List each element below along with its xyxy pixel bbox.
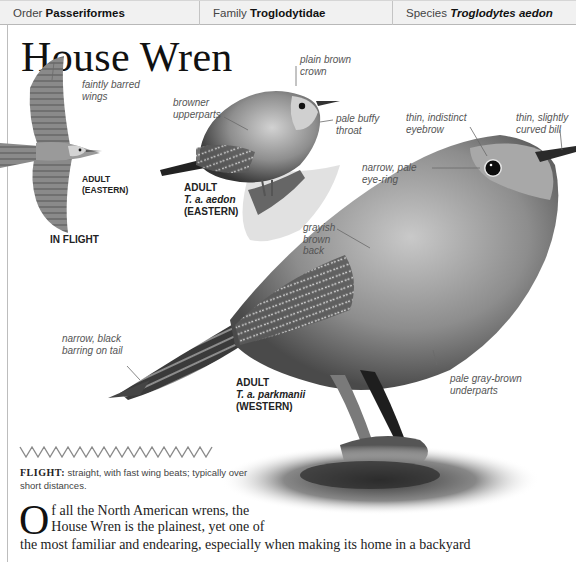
- annotation-browner-upperparts: browner upperparts: [173, 97, 221, 120]
- annotation-narrow-pale-eye-ring: narrow, pale eye-ring: [362, 162, 416, 185]
- annotation-faintly-barred-wings: faintly barred wings: [82, 79, 140, 102]
- eastern-bird-caption: ADULT T. a. aedon (EASTERN): [184, 182, 238, 218]
- annotation-thin-curved-bill: thin, slightly curved bill: [516, 112, 568, 135]
- annotation-pale-buffy-throat: pale buffy throat: [336, 113, 379, 136]
- annotation-plain-brown-crown: plain brown crown: [300, 54, 351, 77]
- body-line-1: f all the North American wrens, the: [20, 503, 560, 519]
- flight-pattern-zigzag: [20, 447, 212, 457]
- western-bird-caption: ADULT T. a. parkmanii (WESTERN): [236, 377, 305, 413]
- intro-paragraph: O f all the North American wrens, the Ho…: [20, 503, 560, 553]
- annotation-narrow-black-barring-tail: narrow, black barring on tail: [62, 333, 123, 356]
- field-guide-page: Order Passeriformes Family Troglodytidae…: [0, 0, 576, 562]
- drop-cap: O: [19, 503, 49, 537]
- flight-description: FLIGHT: straight, with fast wing beats; …: [20, 466, 260, 492]
- flight-bird-caption: ADULT (EASTERN): [82, 174, 128, 196]
- body-line-2: House Wren is the plainest, yet one of: [20, 519, 560, 535]
- annotation-thin-indistinct-eyebrow: thin, indistinct eyebrow: [406, 112, 467, 135]
- annotation-pale-gray-brown-underparts: pale gray-brown underparts: [450, 373, 522, 396]
- in-flight-label: IN FLIGHT: [50, 234, 99, 246]
- body-line-3: the most familiar and endearing, especia…: [20, 537, 560, 553]
- western-bird-illustration: [108, 135, 576, 515]
- flight-label: FLIGHT:: [20, 467, 65, 478]
- annotation-grayish-brown-back: grayish brown back: [303, 222, 335, 257]
